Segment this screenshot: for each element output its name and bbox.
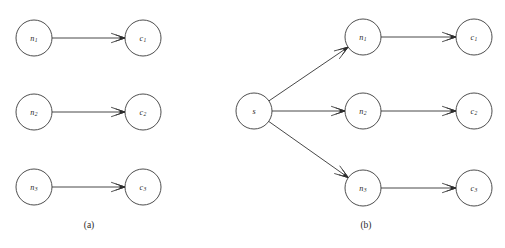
edge-n2-to-c2 <box>381 106 456 115</box>
edge-n1-to-c1 <box>381 32 456 41</box>
figure-canvas: n1c1n2c2n3c3sn1c1n2c2n3c3 (a)(b) <box>0 0 505 248</box>
edge-n1-to-c1 <box>52 33 125 42</box>
panel-caption-panel-a: (a) <box>84 220 95 231</box>
edge-line-s-n1 <box>269 47 348 101</box>
node-s[interactable]: s <box>236 93 272 129</box>
node-n1[interactable]: n1 <box>345 19 381 55</box>
node-n1[interactable]: n1 <box>16 20 52 56</box>
node-c1[interactable]: c1 <box>456 19 492 55</box>
node-n2[interactable]: n2 <box>16 94 52 130</box>
node-n2[interactable]: n2 <box>345 93 381 129</box>
edge-n3-to-c3 <box>52 182 125 191</box>
edge-s-to-n2 <box>272 106 345 115</box>
captions-layer: (a)(b) <box>84 220 372 231</box>
node-c2[interactable]: c2 <box>125 94 161 130</box>
edge-s-to-n1 <box>269 47 348 101</box>
nodes-layer: n1c1n2c2n3c3sn1c1n2c2n3c3 <box>16 19 492 206</box>
diagram-svg: n1c1n2c2n3c3sn1c1n2c2n3c3 (a)(b) <box>0 0 505 248</box>
node-c3[interactable]: c3 <box>125 169 161 205</box>
node-label-s: s <box>252 106 255 115</box>
node-c1[interactable]: c1 <box>125 20 161 56</box>
edge-line-s-n3 <box>269 121 349 177</box>
node-n3[interactable]: n3 <box>345 170 381 206</box>
edge-s-to-n3 <box>269 121 349 177</box>
panel-caption-panel-b: (b) <box>360 220 371 231</box>
node-c3[interactable]: c3 <box>456 170 492 206</box>
edge-n3-to-c3 <box>381 183 456 192</box>
edge-n2-to-c2 <box>52 107 125 116</box>
node-c2[interactable]: c2 <box>456 93 492 129</box>
node-n3[interactable]: n3 <box>16 169 52 205</box>
